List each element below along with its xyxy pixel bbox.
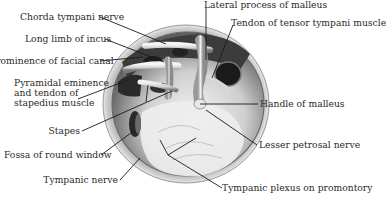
label-prominence-of-facial-canal: Prominence of facial canal [0, 56, 98, 66]
label-stapedius-muscle: stapedius muscle [14, 98, 94, 108]
label-lesser-petrosal-nerve: Lesser petrosal nerve [259, 140, 360, 150]
label-tympanic-plexus: Tympanic plexus on promontory [222, 183, 372, 193]
label-tendon-of-tensor-tympani: Tendon of tensor tympani muscle [231, 18, 386, 28]
label-long-limb-of-incus: Long limb of incus [25, 34, 103, 44]
label-chorda-tympani-nerve: Chorda tympani nerve [20, 12, 98, 22]
label-stapes: Stapes [30, 126, 80, 136]
label-fossa-of-round-window: Fossa of round window [4, 150, 100, 160]
label-handle-of-malleus: Handle of malleus [260, 99, 345, 109]
label-tympanic-nerve: Tympanic nerve [36, 175, 118, 185]
label-lateral-process-of-malleus: Lateral process of malleus [204, 0, 327, 10]
